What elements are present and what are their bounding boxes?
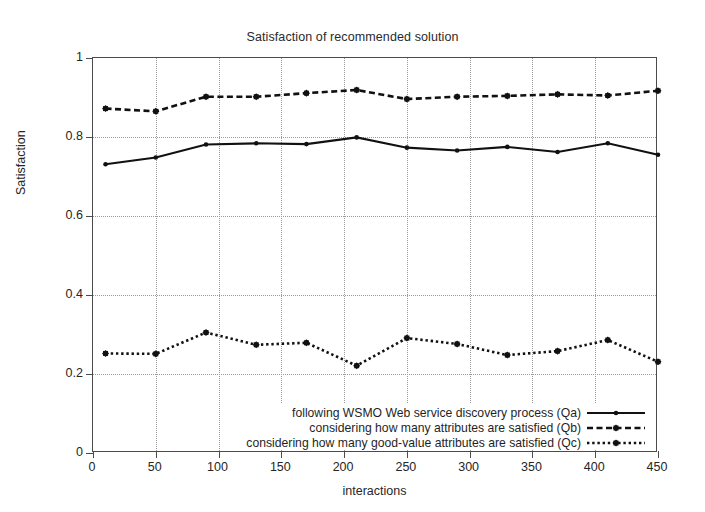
y-tick-mark <box>86 295 93 296</box>
data-point-marker-Qc <box>253 341 260 348</box>
legend-item-label: considering how many good-value attribut… <box>246 436 581 450</box>
x-axis-label: interactions <box>92 484 657 498</box>
data-point-marker-Qa <box>656 152 661 157</box>
y-tick-mark <box>86 453 93 454</box>
data-point-marker-Qc <box>152 350 159 357</box>
data-point-marker-Qc <box>554 348 561 355</box>
chart-legend: following WSMO Web service discovery pro… <box>249 404 647 450</box>
series-line-Qa <box>106 137 658 164</box>
legend-item: considering how many good-value attribut… <box>246 435 646 450</box>
legend-item: following WSMO Web service discovery pro… <box>292 405 646 420</box>
data-point-marker-Qa <box>103 162 108 167</box>
legend-line-sample <box>586 436 646 450</box>
data-point-marker-Qa <box>405 145 410 150</box>
y-tick-label: 0 <box>43 445 83 459</box>
data-point-marker-Qb <box>253 93 260 100</box>
data-point-marker-Qc <box>102 350 109 357</box>
x-tick-label: 350 <box>501 460 561 474</box>
data-point-marker-Qa <box>555 150 560 155</box>
data-point-marker-Qb <box>604 92 611 99</box>
data-point-marker-Qa <box>254 141 259 146</box>
data-point-marker-Qb <box>454 93 461 100</box>
data-point-marker-Qa <box>455 148 460 153</box>
legend-item-label: following WSMO Web service discovery pro… <box>292 406 581 420</box>
data-point-marker-Qb <box>353 86 360 93</box>
y-tick-label: 1 <box>43 50 83 64</box>
series-line-Qb <box>106 90 658 111</box>
y-tick-label: 0.6 <box>43 208 83 222</box>
legend-item: considering how many attributes are sati… <box>309 420 646 435</box>
data-point-marker-Qa <box>204 142 209 147</box>
legend-line-sample <box>586 406 646 420</box>
x-tick-label: 0 <box>62 460 122 474</box>
data-point-marker-Qa <box>304 142 309 147</box>
plot-area <box>92 57 657 452</box>
data-point-marker-Qa <box>153 155 158 160</box>
y-tick-label: 0.2 <box>43 366 83 380</box>
y-tick-mark <box>86 374 93 375</box>
series-plot <box>93 58 658 453</box>
legend-item-label: considering how many attributes are sati… <box>309 421 581 435</box>
data-point-marker-Qb <box>152 108 159 115</box>
legend-line-sample <box>586 421 646 435</box>
y-axis-label: Satisfaction <box>14 130 28 195</box>
y-tick-label: 0.8 <box>43 129 83 143</box>
data-point-marker-Qc <box>303 339 310 346</box>
y-tick-label: 0.4 <box>43 287 83 301</box>
chart-figure: Satisfaction of recommended solution Sat… <box>0 0 705 512</box>
x-tick-label: 50 <box>125 460 185 474</box>
data-point-marker-Qa <box>605 141 610 146</box>
data-point-marker-Qb <box>504 92 511 99</box>
y-tick-mark <box>86 216 93 217</box>
data-point-marker-Qb <box>303 90 310 97</box>
x-tick-label: 100 <box>188 460 248 474</box>
data-point-marker-Qc <box>454 340 461 347</box>
data-point-marker-Qa <box>505 145 510 150</box>
data-point-marker-Qb <box>654 87 661 94</box>
x-tick-label: 150 <box>250 460 310 474</box>
x-tick-label: 400 <box>564 460 624 474</box>
data-point-marker-Qc <box>604 336 611 343</box>
data-point-marker-Qb <box>403 96 410 103</box>
data-point-marker-Qc <box>353 362 360 369</box>
chart-title: Satisfaction of recommended solution <box>0 30 705 44</box>
data-point-marker-Qa <box>354 135 359 140</box>
x-tick-label: 300 <box>439 460 499 474</box>
x-tick-label: 250 <box>376 460 436 474</box>
data-point-marker-Qc <box>654 358 661 365</box>
data-point-marker-Qb <box>202 93 209 100</box>
y-tick-mark <box>86 58 93 59</box>
data-point-marker-Qc <box>504 352 511 359</box>
data-point-marker-Qb <box>102 105 109 112</box>
x-tick-mark <box>658 451 659 458</box>
x-tick-label: 200 <box>313 460 373 474</box>
x-tick-label: 450 <box>627 460 687 474</box>
data-point-marker-Qc <box>202 329 209 336</box>
data-point-marker-Qc <box>403 335 410 342</box>
data-point-marker-Qb <box>554 91 561 98</box>
y-tick-mark <box>86 137 93 138</box>
series-line-Qc <box>106 333 658 366</box>
